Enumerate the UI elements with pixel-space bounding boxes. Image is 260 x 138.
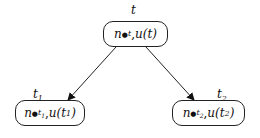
right-u-post: ) [230,106,235,120]
edge-root-left [68,47,116,100]
root-n-symbol: n [114,27,122,41]
left-n-symbol: n [24,106,32,120]
left-node: n●t1, u(t1) [15,100,85,126]
right-u-pre: u(t [207,106,224,120]
root-u-text: u(t) [135,27,157,41]
left-u-post: ) [71,106,76,120]
left-u-pre: u(t [49,106,66,120]
root-node-label: t [131,3,136,17]
edge-root-right [146,47,194,100]
right-n-symbol: n [183,106,191,120]
root-node: n●t, u(t) [103,21,168,47]
right-node: n●t2, u(t2) [172,100,245,126]
